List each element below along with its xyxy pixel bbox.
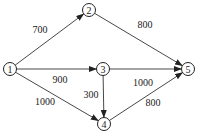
node-label: 4 [102,119,107,130]
edge-labels-layer: 70090010008001000300800 [33,19,161,108]
node-3: 3 [97,63,110,76]
edge-weight-label: 1000 [133,77,153,88]
node-label: 3 [101,64,106,75]
edge-weight-label: 900 [53,74,68,85]
edge-1-2 [15,14,84,65]
node-1: 1 [4,63,17,76]
node-4: 4 [98,118,111,131]
nodes-layer: 12345 [4,4,195,131]
edge-weight-label: 1000 [35,96,55,107]
arrow-icon [15,14,84,65]
node-5: 5 [182,63,195,76]
edge-3-4 [103,75,104,117]
node-2: 2 [83,4,96,17]
edge-weight-label: 800 [138,19,153,30]
node-label: 5 [186,64,191,75]
node-label: 1 [8,64,13,75]
edge-weight-label: 800 [146,97,161,108]
graph-diagram: 70090010008001000300800 12345 [0,0,201,135]
edge-weight-label: 700 [33,24,48,35]
arrow-icon [103,75,104,117]
node-label: 2 [87,5,92,16]
edge-weight-label: 300 [84,89,99,100]
